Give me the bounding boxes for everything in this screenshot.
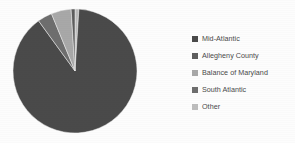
legend-item[interactable]: Allegheny County (192, 47, 292, 64)
legend-item-label: Allegheny County (202, 51, 259, 60)
chart-legend: Mid-AtlanticAllegheny CountyBalance of M… (192, 30, 292, 115)
legend-item-label: Other (202, 102, 220, 111)
legend-item-label: Mid-Atlantic (202, 34, 240, 43)
legend-item[interactable]: Mid-Atlantic (192, 30, 292, 47)
legend-swatch-icon (192, 87, 198, 93)
legend-swatch-icon (192, 53, 198, 59)
legend-item-label: Balance of Maryland (202, 68, 268, 77)
legend-item[interactable]: Balance of Maryland (192, 64, 292, 81)
pie-chart-figure: Mid-AtlanticAllegheny CountyBalance of M… (0, 0, 295, 143)
legend-item[interactable]: South Atlantic (192, 81, 292, 98)
pie-slice-group (13, 9, 137, 133)
legend-swatch-icon (192, 36, 198, 42)
legend-swatch-icon (192, 104, 198, 110)
legend-item[interactable]: Other (192, 98, 292, 115)
pie-chart-svg (12, 8, 138, 134)
legend-item-label: South Atlantic (202, 85, 246, 94)
legend-swatch-icon (192, 70, 198, 76)
pie-chart (12, 8, 138, 134)
